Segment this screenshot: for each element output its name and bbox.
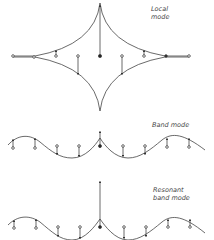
local-mode-label-line2: mode: [151, 14, 169, 22]
resonant-band-mode-label: Resonant band mode: [153, 187, 190, 202]
band-mode-label: Band mode: [152, 122, 189, 130]
resonant-label-line2: band mode: [153, 195, 190, 203]
band-mode-diagram: [8, 132, 205, 158]
local-mode-label: Local mode: [151, 6, 169, 21]
band-mode-label-line1: Band mode: [152, 122, 189, 130]
figure-canvas: [0, 0, 214, 240]
